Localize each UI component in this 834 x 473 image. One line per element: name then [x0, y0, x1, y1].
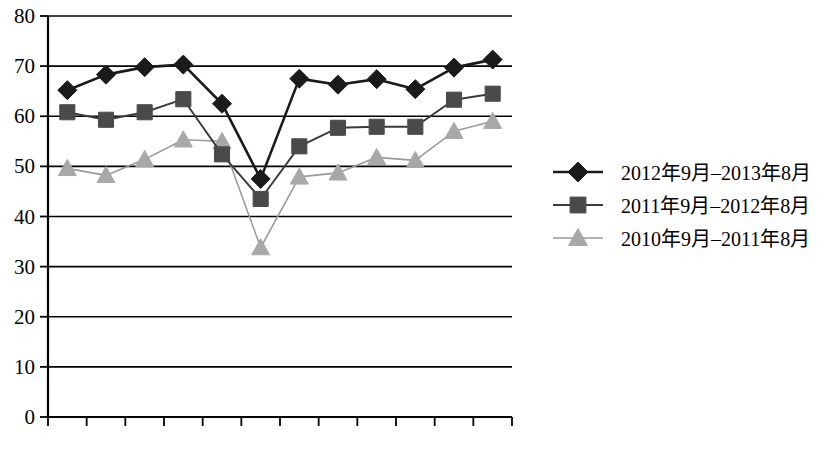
data-point-marker: [58, 81, 77, 100]
data-point-marker: [290, 69, 309, 88]
data-point-marker: [369, 119, 384, 134]
square-marker: [570, 197, 586, 213]
chart-canvas: 01020304050607080 9月10月11月12月1月2月3月4月5月6…: [0, 0, 834, 473]
data-point-marker: [367, 70, 386, 89]
y-tick-label: 30: [14, 255, 35, 279]
data-point-marker: [135, 58, 154, 77]
y-axis-tickmarks: [40, 16, 48, 417]
y-axis-labels: 01020304050607080: [14, 4, 35, 429]
data-point-marker: [329, 75, 348, 94]
data-point-marker: [330, 120, 345, 135]
y-tick-label: 60: [14, 104, 35, 128]
series-3: [58, 112, 501, 254]
y-tick-label: 20: [14, 305, 35, 329]
data-point-marker: [252, 239, 270, 255]
legend-label: 2011年9月–2012年8月: [621, 195, 810, 217]
x-axis-tickmarks: [48, 417, 512, 426]
y-tick-label: 70: [14, 54, 35, 78]
data-point-marker: [58, 159, 76, 175]
data-point-marker: [176, 92, 191, 107]
gridlines: [48, 16, 512, 367]
data-point-marker: [98, 112, 113, 127]
data-point-marker: [60, 105, 75, 120]
data-point-marker: [485, 86, 500, 101]
legend-label: 2010年9月–2011年8月: [621, 228, 810, 250]
data-point-marker: [97, 65, 116, 84]
legend-entry-2[interactable]: 2011年9月–2012年8月: [553, 195, 810, 217]
data-point-marker: [368, 148, 386, 164]
data-point-marker: [137, 105, 152, 120]
legend-label: 2012年9月–2013年8月: [621, 162, 811, 184]
series-line: [67, 121, 492, 247]
series-line: [67, 94, 492, 199]
line-chart: 01020304050607080 9月10月11月12月1月2月3月4月5月6…: [0, 0, 834, 473]
data-point-marker: [292, 139, 307, 154]
y-tick-label: 50: [14, 154, 35, 178]
data-point-marker: [174, 131, 192, 147]
data-point-marker: [406, 80, 425, 99]
data-point-marker: [253, 191, 268, 206]
triangle-marker: [569, 229, 588, 246]
data-series: [58, 50, 502, 255]
y-tick-label: 10: [14, 355, 35, 379]
data-point-marker: [446, 92, 461, 107]
legend-entry-3[interactable]: 2010年9月–2011年8月: [553, 228, 810, 250]
y-tick-label: 80: [14, 4, 35, 28]
y-tick-label: 0: [25, 405, 36, 429]
data-point-marker: [214, 147, 229, 162]
chart-legend: 2012年9月–2013年8月2011年9月–2012年8月2010年9月–20…: [553, 162, 811, 250]
data-point-marker: [484, 112, 502, 128]
data-point-marker: [408, 119, 423, 134]
data-point-marker: [445, 58, 464, 77]
y-tick-label: 40: [14, 205, 35, 229]
series-line: [67, 60, 492, 179]
legend-entry-1[interactable]: 2012年9月–2013年8月: [553, 162, 811, 184]
diamond-marker: [568, 162, 588, 182]
data-point-marker: [251, 169, 270, 188]
data-point-marker: [136, 150, 154, 166]
